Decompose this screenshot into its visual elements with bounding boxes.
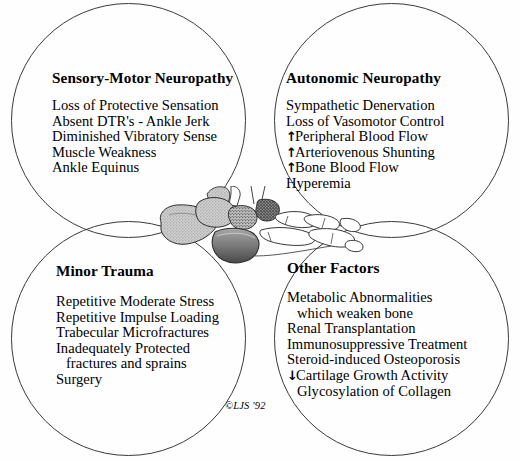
heading-other-factors: Other Factors <box>287 259 467 277</box>
list-item: Repetitive Impulse Loading <box>56 310 219 326</box>
list-autonomic: Sympathetic Denervation Loss of Vasomoto… <box>286 98 444 192</box>
list-item: ↓Cartilage Growth Activity <box>287 368 467 384</box>
list-item: ↑Bone Blood Flow <box>286 160 444 176</box>
item-label: Trabecular Microfractures <box>56 324 209 340</box>
item-label: Muscle Weakness <box>52 144 156 160</box>
venn-diagram-figure: Sensory-Motor Neuropathy Loss of Protect… <box>0 0 520 461</box>
item-label: Repetitive Moderate Stress <box>56 293 214 309</box>
arrow-up-icon: ↑ <box>286 145 295 161</box>
list-item: Trabecular Microfractures <box>56 325 219 341</box>
list-item: Loss of Protective Sensation <box>52 98 233 114</box>
arrow-down-icon: ↓ <box>287 368 296 384</box>
item-label: Ankle Equinus <box>52 159 139 175</box>
item-label: Arteriovenous Shunting <box>295 144 435 160</box>
heading-autonomic: Autonomic Neuropathy <box>286 69 444 87</box>
list-item: which weaken bone <box>287 306 467 322</box>
item-label: Loss of Vasomotor Control <box>286 113 444 129</box>
list-item: Steroid-induced Osteoporosis <box>287 352 467 368</box>
quadrant-sensory-motor: Sensory-Motor Neuropathy Loss of Protect… <box>52 69 233 176</box>
item-label: which weaken bone <box>297 305 413 321</box>
list-item: Sympathetic Denervation <box>286 98 444 114</box>
item-label: Bone Blood Flow <box>295 159 399 175</box>
item-label: Cartilage Growth Activity <box>296 367 448 383</box>
arrow-up-icon: ↑ <box>286 160 295 176</box>
list-other-factors: Metabolic Abnormalities which weaken bon… <box>287 290 467 399</box>
item-label: Metabolic Abnormalities <box>287 289 433 305</box>
quadrant-other-factors: Other Factors Metabolic Abnormalities wh… <box>287 259 467 399</box>
list-item: Metabolic Abnormalities <box>287 290 467 306</box>
list-item: Glycosylation of Collagen <box>287 384 467 400</box>
list-item: Diminished Vibratory Sense <box>52 129 233 145</box>
item-label: Loss of Protective Sensation <box>52 97 219 113</box>
item-label: Peripheral Blood Flow <box>295 128 428 144</box>
list-item: Renal Transplantation <box>287 321 467 337</box>
list-item: fractures and sprains <box>56 356 219 372</box>
item-label: Inadequately Protected <box>56 340 190 356</box>
item-label: Repetitive Impulse Loading <box>56 309 219 325</box>
list-item: Hyperemia <box>286 176 444 192</box>
list-minor-trauma: Repetitive Moderate Stress Repetitive Im… <box>56 294 219 388</box>
arrow-up-icon: ↑ <box>286 129 295 145</box>
item-label: Steroid-induced Osteoporosis <box>287 351 460 367</box>
item-label: fractures and sprains <box>66 355 187 371</box>
heading-sensory-motor: Sensory-Motor Neuropathy <box>52 69 233 87</box>
quadrant-autonomic: Autonomic Neuropathy Sympathetic Denerva… <box>286 69 444 192</box>
list-item: ↑Peripheral Blood Flow <box>286 129 444 145</box>
list-item: ↑Arteriovenous Shunting <box>286 145 444 161</box>
copyright-notice: ©LJS '92 <box>225 400 266 411</box>
item-label: Diminished Vibratory Sense <box>52 128 217 144</box>
item-label: Absent DTR's - Ankle Jerk <box>52 113 209 129</box>
list-item: Loss of Vasomotor Control <box>286 114 444 130</box>
list-item: Surgery <box>56 372 219 388</box>
list-item: Inadequately Protected <box>56 341 219 357</box>
item-label: Sympathetic Denervation <box>286 97 435 113</box>
list-item: Repetitive Moderate Stress <box>56 294 219 310</box>
item-label: Surgery <box>56 371 102 387</box>
item-label: Glycosylation of Collagen <box>297 383 451 399</box>
heading-minor-trauma: Minor Trauma <box>56 262 219 280</box>
list-item: Immunosuppressive Treatment <box>287 337 467 353</box>
list-item: Ankle Equinus <box>52 160 233 176</box>
list-sensory-motor: Loss of Protective Sensation Absent DTR'… <box>52 98 233 176</box>
list-item: Absent DTR's - Ankle Jerk <box>52 114 233 130</box>
item-label: Hyperemia <box>286 175 351 191</box>
list-item: Muscle Weakness <box>52 145 233 161</box>
item-label: Immunosuppressive Treatment <box>287 336 467 352</box>
quadrant-minor-trauma: Minor Trauma Repetitive Moderate Stress … <box>56 262 219 388</box>
item-label: Renal Transplantation <box>287 320 416 336</box>
